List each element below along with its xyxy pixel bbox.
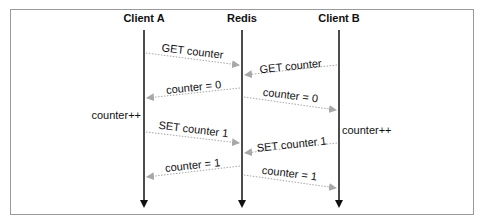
message-label: SET counter 1 xyxy=(158,119,229,139)
participant-client-a: Client A xyxy=(123,12,164,24)
message-label: counter = 1 xyxy=(261,164,317,183)
participant-redis: Redis xyxy=(227,12,257,24)
sequence-diagram: Client A Redis Client B GET counter GET … xyxy=(0,0,485,223)
message-label: SET counter 1 xyxy=(256,134,327,153)
note-client-b: counter++ xyxy=(342,124,392,136)
message-label: counter = 0 xyxy=(165,78,221,96)
message-label: counter = 1 xyxy=(164,156,220,174)
note-client-a: counter++ xyxy=(91,109,141,121)
message-label: counter = 0 xyxy=(262,86,318,105)
message-label: GET counter xyxy=(161,41,224,61)
participant-client-b: Client B xyxy=(318,12,360,24)
message-label: GET counter xyxy=(259,57,322,75)
